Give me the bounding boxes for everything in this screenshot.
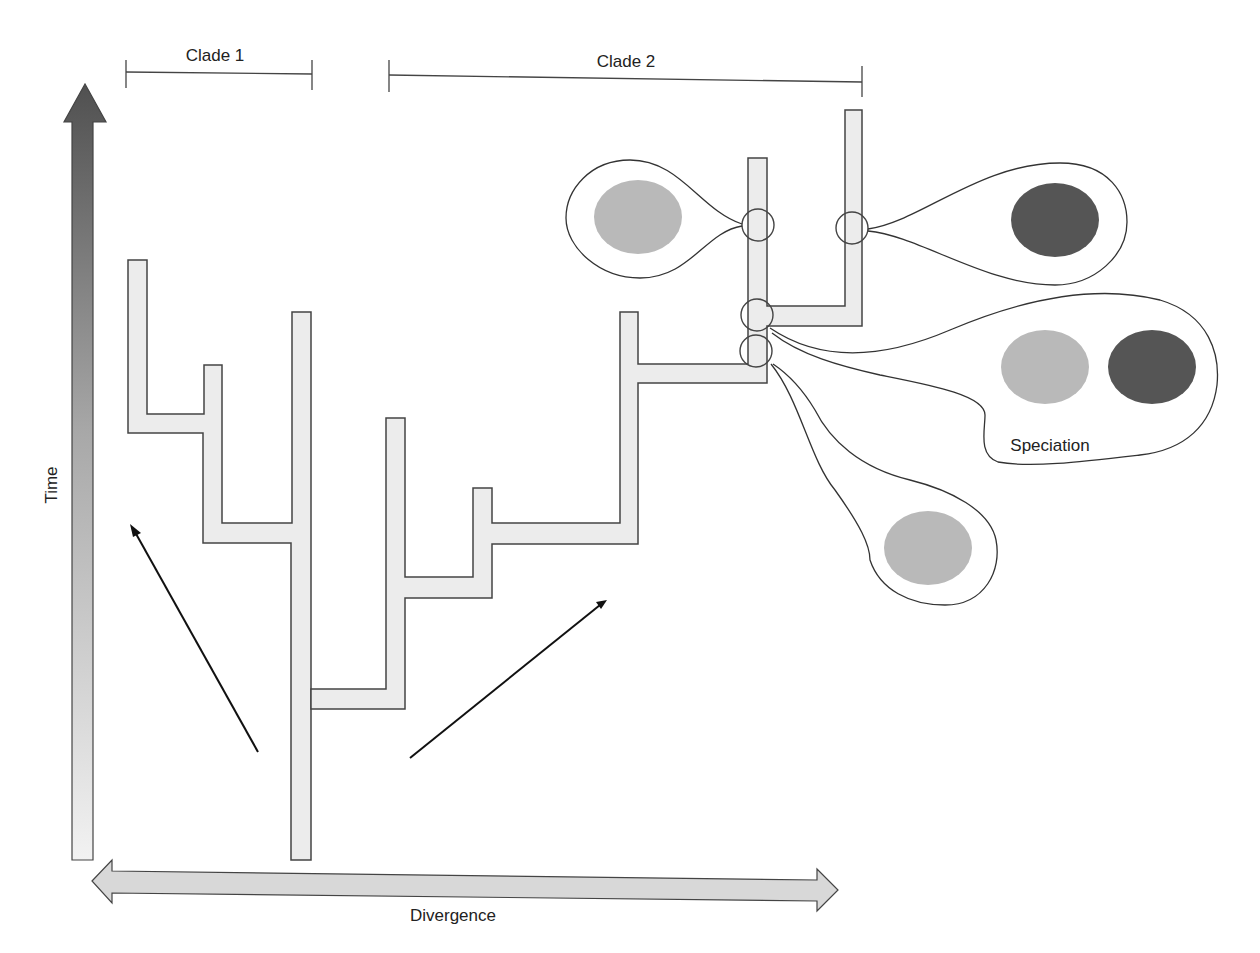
clade-2-label: Clade 2 — [597, 52, 656, 71]
population-light-3 — [884, 511, 972, 585]
clade-2-trend-arrow — [410, 600, 607, 758]
population-dark-2 — [1108, 330, 1196, 404]
time-axis-label: Time — [42, 466, 61, 503]
tree-branches — [128, 110, 862, 860]
clade-1-trend-arrow — [130, 524, 258, 752]
clade-1-label: Clade 1 — [186, 46, 245, 65]
population-light-1 — [594, 180, 682, 254]
phylogeny-diagram: Clade 1 Clade 2 Time Divergence — [0, 0, 1260, 953]
population-bubble-upper-left — [566, 160, 742, 278]
speciation-label: Speciation — [1010, 436, 1089, 455]
time-axis-arrow — [64, 84, 106, 860]
branch-clade1-a — [128, 260, 311, 860]
population-bubble-upper-right — [868, 163, 1127, 285]
population-bubble-lower — [771, 364, 997, 605]
divergence-axis-arrow — [92, 860, 838, 911]
branch-clade2-a — [311, 110, 862, 709]
divergence-axis-label: Divergence — [410, 906, 496, 925]
population-dark-1 — [1011, 183, 1099, 257]
population-light-2 — [1001, 330, 1089, 404]
